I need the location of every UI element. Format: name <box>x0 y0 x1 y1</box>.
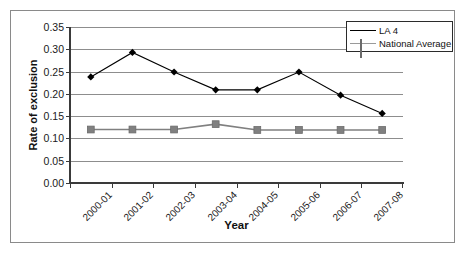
data-point-diamond <box>212 86 219 93</box>
chart-legend: LA 4 National Average <box>346 21 453 52</box>
data-point-square <box>129 126 136 133</box>
data-point-square <box>337 127 344 134</box>
legend-item-national-average: National Average <box>347 37 452 50</box>
data-point-square <box>212 121 219 128</box>
x-tick <box>278 183 279 188</box>
data-point-diamond <box>379 110 386 117</box>
legend-key-square <box>350 38 376 49</box>
data-point-square <box>254 127 261 134</box>
data-point-diamond <box>170 68 177 75</box>
data-point-diamond <box>129 49 136 56</box>
legend-line-series-1 <box>350 30 376 31</box>
x-tick <box>153 183 154 188</box>
y-tick-label: 0.15 <box>44 111 64 122</box>
legend-item-la4: LA 4 <box>347 24 452 37</box>
x-tick <box>361 183 362 188</box>
x-tick <box>237 183 238 188</box>
x-tick <box>195 183 196 188</box>
y-tick-label: 0.10 <box>44 133 64 144</box>
y-tick-label: 0.30 <box>44 44 64 55</box>
x-axis-title: Year <box>70 219 403 231</box>
legend-label-series-1: LA 4 <box>376 26 398 36</box>
legend-key-diamond <box>350 25 376 36</box>
y-tick-label: 0.20 <box>44 89 64 100</box>
legend-label-series-2: National Average <box>376 39 451 49</box>
y-tick-label: 0.05 <box>44 155 64 166</box>
data-point-diamond <box>254 86 261 93</box>
series-line-1 <box>91 52 382 113</box>
data-point-square <box>171 126 178 133</box>
figure-frame: Rate of exclusion 0.000.050.100.150.200.… <box>10 10 455 243</box>
data-point-diamond <box>337 92 344 99</box>
y-tick-label: 0.00 <box>44 178 64 189</box>
data-point-square <box>87 126 94 133</box>
data-point-diamond <box>295 68 302 75</box>
x-tick <box>320 183 321 188</box>
legend-line-series-2 <box>350 43 376 44</box>
x-tick <box>112 183 113 188</box>
square-icon <box>360 40 362 58</box>
y-tick-label: 0.35 <box>44 22 64 33</box>
chart-screenshot: Rate of exclusion 0.000.050.100.150.200.… <box>0 0 465 255</box>
data-point-diamond <box>87 73 94 80</box>
data-point-square <box>379 127 386 134</box>
y-tick-label: 0.25 <box>44 66 64 77</box>
x-tick <box>70 183 71 188</box>
data-point-square <box>296 127 303 134</box>
x-tick <box>402 183 403 188</box>
y-axis-title-label: Rate of exclusion <box>27 59 39 150</box>
y-axis-title: Rate of exclusion <box>25 27 41 183</box>
